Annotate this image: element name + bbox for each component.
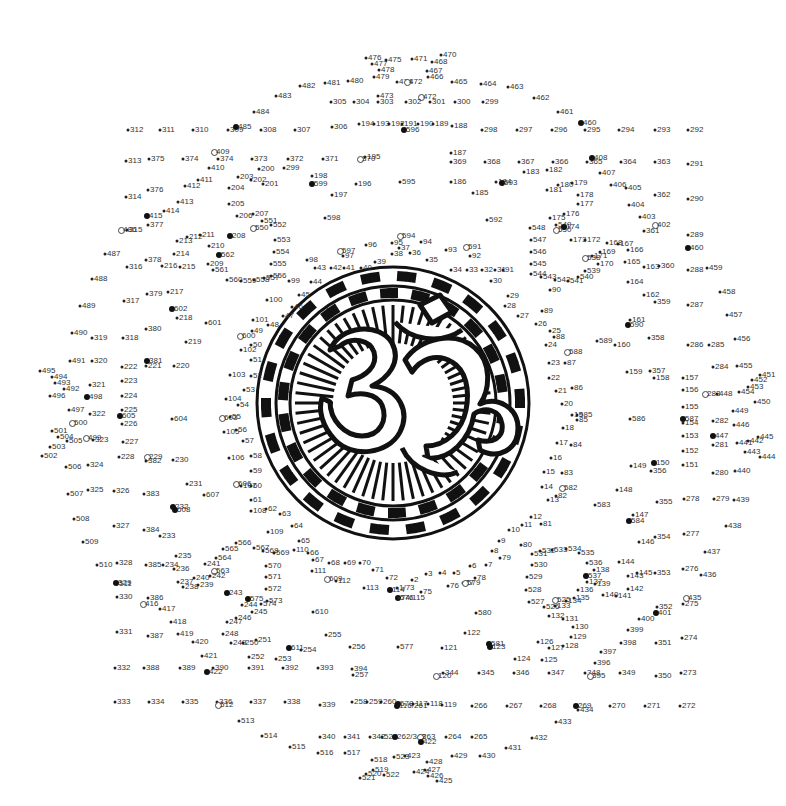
dot-number-label: 314 bbox=[128, 193, 141, 201]
dot-number-label: 583 bbox=[597, 501, 610, 509]
dot-number-label: 13 bbox=[550, 496, 559, 504]
dot-number-label: 299 bbox=[485, 98, 498, 106]
dot-number-label: 288 bbox=[690, 266, 703, 274]
dot-number-label: 384 bbox=[146, 526, 159, 534]
dot-number-label: 305 bbox=[333, 98, 346, 106]
dot-number-label: 416 bbox=[145, 600, 158, 608]
dot-number-label: 472 bbox=[409, 78, 422, 86]
dot-number-label: 436 bbox=[703, 571, 716, 579]
dot-number-label: 65 bbox=[301, 537, 310, 545]
dot-number-label: 304 bbox=[356, 98, 369, 106]
dot-number-label: 415 bbox=[149, 212, 162, 220]
dot-number-label: 230 bbox=[175, 456, 188, 464]
dot-number-label: 459 bbox=[709, 264, 722, 272]
dot-number-label: 195 bbox=[367, 153, 380, 161]
dot-number-label: 513 bbox=[241, 717, 254, 725]
dot-number-label: 294 bbox=[621, 126, 634, 134]
dot-number-label: 353 bbox=[657, 569, 670, 577]
dot-number-label: 142 bbox=[630, 585, 643, 593]
dot-number-label: 319 bbox=[94, 334, 107, 342]
dot-number-label: 369 bbox=[453, 158, 466, 166]
dot-number-label: 561 bbox=[215, 266, 228, 274]
dot-number-label: 42 bbox=[333, 264, 342, 272]
dot-number-label: 17 bbox=[559, 439, 568, 447]
dot-number-label: 401 bbox=[658, 609, 671, 617]
dot-number-label: 61 bbox=[253, 496, 262, 504]
dot-number-label: 170 bbox=[600, 260, 613, 268]
dot-number-label: 431 bbox=[508, 744, 521, 752]
dot-number-label: 47 bbox=[285, 312, 294, 320]
dot-number-label: 579 bbox=[467, 579, 480, 587]
dot-number-label: 489 bbox=[82, 302, 95, 310]
dot-number-label: 316 bbox=[129, 263, 142, 271]
dot-number-label: 81 bbox=[543, 520, 552, 528]
dot-number-label: 509 bbox=[85, 538, 98, 546]
dot-number-label: 74/115 bbox=[401, 594, 425, 602]
dot-number-label: 601 bbox=[208, 319, 221, 327]
dot-number-label: 388 bbox=[146, 664, 159, 672]
dot-number-label: 313 bbox=[128, 157, 141, 165]
dot-number-label: 335 bbox=[185, 698, 198, 706]
dot-number-label: 15 bbox=[546, 468, 555, 476]
dot-number-label: 339 bbox=[322, 701, 335, 709]
dot-number-label: 591 bbox=[468, 243, 481, 251]
dot-number-label: 22 bbox=[551, 374, 560, 382]
dot-number-label: 12 bbox=[533, 513, 542, 521]
dot-number-label: 346 bbox=[516, 669, 529, 677]
dot-number-label: 407 bbox=[602, 169, 615, 177]
dot-number-label: 423 bbox=[407, 752, 420, 760]
dot-number-label: 341 bbox=[347, 733, 360, 741]
dot-number-label: 479 bbox=[376, 73, 389, 81]
dot-number-label: 545 bbox=[533, 260, 546, 268]
dot-number-label: 535 bbox=[581, 549, 594, 557]
dot-number-label: 277 bbox=[686, 530, 699, 538]
dot-number-label: 146 bbox=[641, 538, 654, 546]
dot-number-label: 80 bbox=[523, 541, 532, 549]
dot-number-label: 186 bbox=[453, 178, 466, 186]
dot-number-label: 507 bbox=[70, 490, 83, 498]
dot-number-label: 53 bbox=[246, 386, 255, 394]
dot-number-label: 86 bbox=[574, 384, 583, 392]
dot-number-label: 399 bbox=[630, 626, 643, 634]
dot-number-label: 461 bbox=[560, 108, 573, 116]
dot-number-label: 153 bbox=[685, 432, 698, 440]
dot-number-label: 36 bbox=[412, 249, 421, 257]
dot-number-label: 462 bbox=[536, 94, 549, 102]
dot-number-label: 113 bbox=[366, 584, 379, 592]
dot-number-label: 91 bbox=[505, 266, 514, 274]
dot-number-label: 46 bbox=[294, 303, 303, 311]
dot-number-label: 299 bbox=[286, 164, 299, 172]
dot-number-label: 11 bbox=[524, 521, 532, 529]
dot-number-label: 149 bbox=[633, 462, 646, 470]
dot-number-label: 480 bbox=[350, 77, 363, 85]
dot-number-label: 276 bbox=[685, 565, 698, 573]
dot-number-label: 374 bbox=[220, 155, 233, 163]
dot-number-label: 160 bbox=[617, 341, 630, 349]
dot-number-label: 172 bbox=[587, 236, 600, 244]
dot-number-label: 508 bbox=[76, 515, 89, 523]
dot-number-label: 128 bbox=[565, 642, 578, 650]
dot-number-label: 62 bbox=[268, 505, 277, 513]
dot-number-label: 466 bbox=[430, 73, 443, 81]
dot-number-label: 359 bbox=[657, 298, 670, 306]
dot-number-label: 555 bbox=[273, 260, 286, 268]
dot-number-label: 465 bbox=[454, 78, 467, 86]
dot-number-label: 463 bbox=[510, 83, 523, 91]
dot-number-label: 382 bbox=[148, 457, 161, 465]
dot-number-label: 51 bbox=[253, 356, 262, 364]
dot-number-label: 367 bbox=[521, 158, 534, 166]
dot-number-label: 484 bbox=[256, 108, 269, 116]
dot-number-label: 380 bbox=[148, 325, 161, 333]
dot-number-label: 48 bbox=[270, 321, 279, 329]
dot-number-label: 556 bbox=[273, 272, 286, 280]
dot-number-label: 227 bbox=[125, 438, 138, 446]
dot-number-label: 279 bbox=[716, 495, 729, 503]
dot-number-label: 148 bbox=[619, 486, 632, 494]
dot-number-label: 103 bbox=[232, 371, 245, 379]
dot-number-label: 178 bbox=[580, 191, 593, 199]
dot-number-label: 179 bbox=[574, 179, 587, 187]
dot-number-label: 308 bbox=[263, 126, 276, 134]
dot-number-label: 55 bbox=[232, 413, 241, 421]
dot-number-label: 580 bbox=[478, 609, 491, 617]
dot-number-label: 332 bbox=[117, 664, 130, 672]
